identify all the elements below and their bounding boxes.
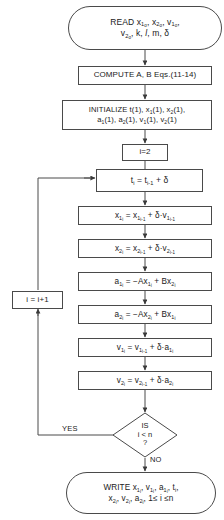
node-step-a1: a1i = −Ax1i + Bx2i (78, 272, 212, 291)
node-increment-label: i = i+1 (26, 295, 49, 306)
node-step-v1-label: v1i = v1i-1 + δ·a1i (117, 342, 174, 353)
node-read-line2: v2o, k, l, m, δ (110, 28, 180, 39)
node-write: WRITE x1i, v1i, a1i, ti, x2i, v2i, a2i, … (66, 472, 216, 514)
node-write-line1: WRITE x1i, v1i, a1i, ti, (103, 482, 178, 493)
node-step-t: ti = ti-1 + δ (96, 169, 203, 192)
node-init-i-label: i=2 (139, 147, 150, 158)
node-step-a1-label: a1i = −Ax1i + Bx2i (115, 276, 176, 287)
node-compute-label: COMPUTE A, B Eqs.(11-14) (94, 70, 197, 81)
node-step-x1-label: x1i = x1i-1 + δ·v1i-1 (115, 210, 175, 221)
node-read-line1: READ x1o, x2o, v1o, (110, 17, 180, 28)
node-step-x2-label: x2i = x2i-1 + δ·v2i-1 (115, 243, 175, 254)
node-step-a2-label: a2i = −Ax2i + Bx1i (115, 309, 176, 320)
node-step-x1: x1i = x1i-1 + δ·v1i-1 (78, 206, 212, 225)
node-step-v1: v1i = v1i-1 + δ·a1i (78, 338, 212, 357)
node-increment: i = i+1 (12, 291, 63, 309)
node-initialize-line1: INITIALIZE t(1), x1(1), x2(1), (89, 105, 185, 115)
node-read: READ x1o, x2o, v1o, v2o, k, l, m, δ (68, 6, 222, 50)
flowchart-canvas: READ x1o, x2o, v1o, v2o, k, l, m, δ COMP… (0, 0, 224, 520)
node-compute: COMPUTE A, B Eqs.(11-14) (78, 66, 212, 85)
node-step-v2-label: v2i = v2i-1 + δ·a2i (117, 375, 174, 386)
node-step-a2: a2i = −Ax2i + Bx1i (78, 305, 212, 324)
edge-label-no: NO (150, 455, 162, 464)
node-step-v2: v2i = v2i-1 + δ·a2i (78, 371, 212, 390)
node-step-t-label: ti = ti-1 + δ (131, 175, 169, 186)
node-decision-line3: ? (143, 439, 147, 447)
node-decision: IS i < n ? (112, 412, 178, 458)
node-step-x2: x2i = x2i-1 + δ·v2i-1 (78, 239, 212, 258)
node-initialize-line2: a1(1), a2(1), v1(1), v2(1) (89, 115, 185, 125)
node-write-line2: x2i, v2i, a2i, 1≤ i ≤n (103, 493, 178, 504)
node-init-i: i=2 (122, 144, 168, 161)
node-initialize: INITIALIZE t(1), x1(1), x2(1), a1(1), a2… (62, 100, 212, 130)
edge-label-yes: YES (62, 424, 78, 433)
